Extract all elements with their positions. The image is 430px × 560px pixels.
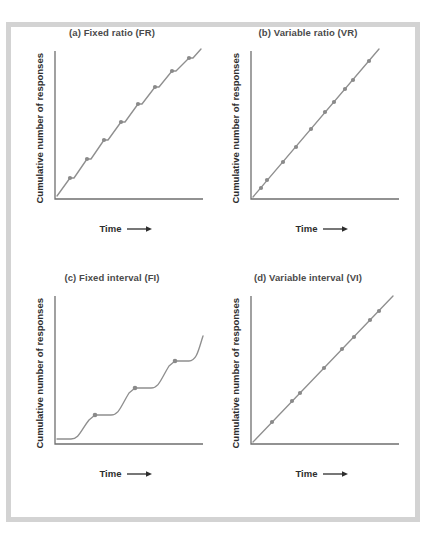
chart-panel-fixed-ratio: (a) Fixed ratio (FR) Cumulative number o… [17,27,207,267]
reinforcement-markers [93,359,178,418]
x-axis-label-fixed-ratio: Time [99,223,121,234]
panel-grid: (a) Fixed ratio (FR) Cumulative number o… [11,27,415,517]
chart-title-fixed-ratio: (a) Fixed ratio (FR) [17,27,207,38]
y-axis-label-variable-interval: Cumulative number of responses [230,299,241,449]
right-arrow-icon [127,470,153,478]
axis-lines [251,51,399,199]
x-axis-label-variable-ratio: Time [295,223,317,234]
plot-area-variable-interval [241,292,403,464]
plot-area-fixed-ratio [45,47,207,219]
x-axis-label-wrap-variable-ratio: Time [241,223,403,234]
chart-title-variable-interval: (d) Variable interval (VI) [213,272,403,283]
figure-page: (a) Fixed ratio (FR) Cumulative number o… [0,0,430,560]
reinforcement-markers [68,56,191,180]
chart-title-variable-ratio: (b) Variable ratio (VR) [213,27,403,38]
plot-area-fixed-interval [45,292,207,464]
axis-lines [55,296,203,444]
chart-title-fixed-interval: (c) Fixed interval (FI) [17,272,207,283]
plot-area-variable-ratio [241,47,403,219]
y-axis-label-variable-ratio: Cumulative number of responses [230,54,241,204]
y-axis-label-fixed-ratio: Cumulative number of responses [34,54,45,204]
right-arrow-icon [127,225,153,233]
y-axis-label-fixed-interval: Cumulative number of responses [34,299,45,449]
right-arrow-icon [323,470,349,478]
page-bleed-through-text [18,532,23,543]
right-arrow-icon [323,225,349,233]
x-axis-label-wrap-fixed-ratio: Time [45,223,207,234]
cumulative-response-curve [57,336,203,439]
x-axis-label-fixed-interval: Time [99,468,121,479]
figure-panel: (a) Fixed ratio (FR) Cumulative number o… [11,27,415,517]
cumulative-response-curve [253,49,379,197]
x-axis-label-wrap-fixed-interval: Time [45,468,207,479]
axis-lines [55,51,203,199]
cumulative-response-curve [57,49,201,196]
chart-panel-variable-interval: (d) Variable interval (VI) Cumulative nu… [213,272,403,512]
chart-panel-fixed-interval: (c) Fixed interval (FI) Cumulative numbe… [17,272,207,512]
x-axis-label-wrap-variable-interval: Time [241,468,403,479]
x-axis-label-variable-interval: Time [295,468,317,479]
chart-panel-variable-ratio: (b) Variable ratio (VR) Cumulative numbe… [213,27,403,267]
